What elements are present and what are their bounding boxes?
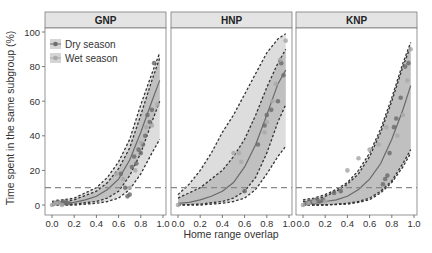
data-point xyxy=(323,199,328,204)
x-tick-label: 1.0 xyxy=(407,218,420,229)
x-axis-label: Home range overlap xyxy=(183,228,278,240)
data-point xyxy=(150,108,155,113)
data-point xyxy=(395,134,400,139)
data-point xyxy=(144,125,149,130)
data-point xyxy=(403,64,408,69)
legend-label: Dry season xyxy=(65,39,116,50)
x-tick-label: 0.6 xyxy=(363,218,376,229)
x-tick-label: 0.4 xyxy=(90,218,103,229)
y-tick-label: 60 xyxy=(29,96,40,107)
facet-label: HNP xyxy=(221,15,242,26)
y-tick-label: 0 xyxy=(35,200,40,211)
data-point xyxy=(345,168,350,173)
data-point xyxy=(398,95,403,100)
data-point xyxy=(381,182,386,187)
data-point xyxy=(152,61,157,66)
legend-key-point xyxy=(53,42,58,47)
x-tick-label: 0.2 xyxy=(68,218,81,229)
data-point xyxy=(273,82,278,87)
faceted-scatter-chart: Time spent in the same subgroup (%) 0204… xyxy=(0,0,432,253)
data-point xyxy=(406,61,411,66)
data-point xyxy=(66,201,71,206)
x-tick-label: 0.2 xyxy=(319,218,332,229)
data-point xyxy=(143,134,148,139)
data-point xyxy=(338,189,343,194)
data-point xyxy=(134,161,139,166)
data-point xyxy=(367,147,372,152)
y-tick-label: 20 xyxy=(29,165,40,176)
data-point xyxy=(176,203,181,208)
data-point xyxy=(281,73,286,78)
data-point xyxy=(301,203,306,208)
x-tick-label: 0.8 xyxy=(134,218,147,229)
data-point xyxy=(376,142,381,147)
x-tick-label: 0.6 xyxy=(112,218,125,229)
data-point xyxy=(278,57,283,62)
data-point xyxy=(270,99,275,104)
data-point xyxy=(265,113,270,118)
data-point xyxy=(130,165,135,170)
data-point xyxy=(114,172,119,177)
data-point xyxy=(269,108,274,113)
data-point xyxy=(394,116,399,121)
data-point xyxy=(145,113,150,118)
y-tick-label: 80 xyxy=(29,61,40,72)
data-point xyxy=(332,191,337,196)
data-point xyxy=(132,154,137,159)
data-point xyxy=(239,159,244,164)
data-point xyxy=(405,78,410,83)
data-point xyxy=(60,203,65,208)
data-point xyxy=(306,201,311,206)
data-point xyxy=(127,185,132,190)
data-point xyxy=(356,156,361,161)
panel-hnp: HNP0.00.20.40.60.81.0 xyxy=(171,12,296,229)
x-tick-label: 0.0 xyxy=(45,218,58,229)
facet-label: GNP xyxy=(95,15,117,26)
data-point xyxy=(133,168,138,173)
facet-label: KNP xyxy=(346,15,367,26)
data-point xyxy=(123,185,128,190)
data-point xyxy=(242,189,247,194)
x-tick-label: 0.0 xyxy=(296,218,309,229)
data-point xyxy=(276,99,281,104)
data-point xyxy=(312,199,317,204)
data-point xyxy=(139,151,144,156)
data-point xyxy=(237,151,242,156)
data-point xyxy=(256,142,261,147)
data-point xyxy=(401,113,406,118)
y-axis-label: Time spent in the same subgroup (%) xyxy=(4,31,16,206)
data-point xyxy=(265,120,270,125)
data-point xyxy=(121,177,126,182)
data-point xyxy=(155,102,160,107)
data-point xyxy=(139,140,144,145)
x-tick-label: 1.0 xyxy=(156,218,169,229)
y-tick-label: 40 xyxy=(29,130,40,141)
panel-knp: KNP0.00.20.40.60.81.0 xyxy=(296,12,421,229)
data-point xyxy=(385,173,390,178)
data-point xyxy=(119,172,124,177)
y-axis-ticks: 020406080100 xyxy=(24,27,45,211)
data-point xyxy=(262,130,267,135)
data-point xyxy=(283,38,288,43)
data-point xyxy=(387,151,392,156)
x-tick-label: 0.4 xyxy=(341,218,354,229)
data-point xyxy=(231,151,236,156)
legend-label: Wet season xyxy=(65,53,118,64)
data-point xyxy=(150,123,155,128)
legend-key-point xyxy=(53,56,58,61)
x-tick-label: 1.0 xyxy=(282,218,295,229)
data-point xyxy=(384,125,389,130)
data-point xyxy=(392,125,397,130)
data-point xyxy=(408,47,413,52)
y-tick-label: 100 xyxy=(24,27,40,38)
x-tick-label: 0.8 xyxy=(385,218,398,229)
data-point xyxy=(127,192,132,197)
